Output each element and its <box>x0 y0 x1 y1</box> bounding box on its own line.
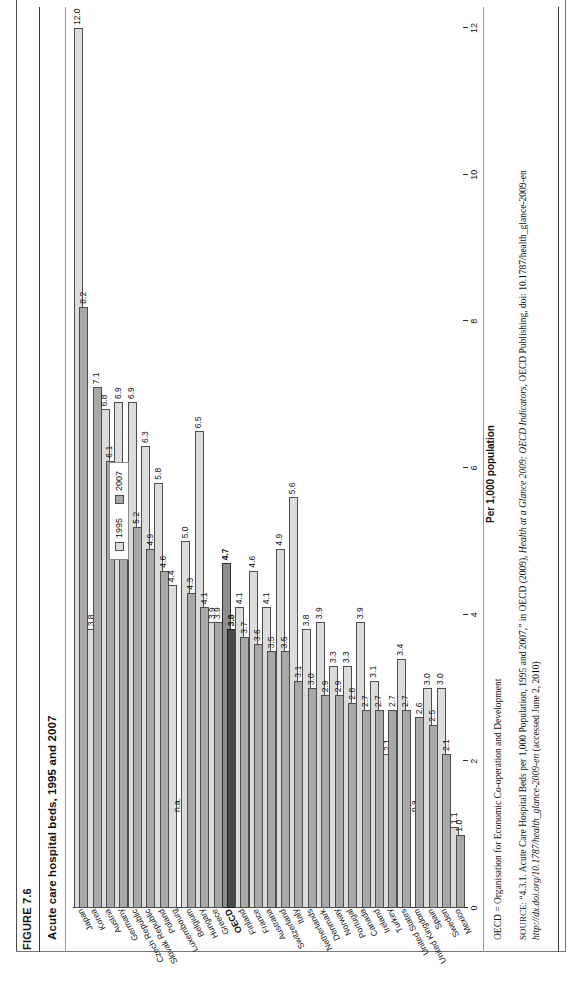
bar-value-label: 2.8 <box>347 688 357 700</box>
legend-label-1995: 1995 <box>114 518 124 538</box>
bar-value-label: 12.0 <box>72 8 82 25</box>
bar-value-label: 3.5 <box>266 637 276 649</box>
bar-value-label: 3.3 <box>341 651 351 663</box>
bar-value-label: 4.9 <box>274 534 284 546</box>
bar-value-label: 4.4 <box>166 571 176 583</box>
bar-value-label: 3.5 <box>279 637 289 649</box>
bar-value-label: 3.7 <box>239 622 249 634</box>
bar-value-label: 2.7 <box>387 695 397 707</box>
divider-top <box>39 7 40 952</box>
bar-value-label: 2.7 <box>400 695 410 707</box>
source-italic-title: Health at a Glance 2009: OECD Indicators <box>518 386 528 553</box>
bar-value-label: 7.1 <box>91 373 101 385</box>
figure-title: Acute care hospital beds, 1995 and 2007 <box>46 716 58 940</box>
bar-value-label: 3.1 <box>368 666 378 678</box>
bar-value-label: 3.8 <box>301 615 311 627</box>
bar-value-label: 2.7 <box>360 695 370 707</box>
source-text-2: , OECD Publishing, doi: 10.1787/health_g… <box>518 170 528 386</box>
bar-value-label: 3.9 <box>355 607 365 619</box>
bar-value-label: 3.0 <box>306 673 316 685</box>
bar-value-label: 5.2 <box>131 512 141 524</box>
legend-item-1995: 1995 <box>114 518 124 551</box>
source-text-3: (accessed June 2, 2010) <box>531 661 541 754</box>
bar-value-label: 4.1 <box>234 593 244 605</box>
bar-value-label: 8.2 <box>78 292 88 304</box>
scanned-page: FIGURE 7.6 Acute care hospital beds, 199… <box>0 0 578 985</box>
axis-tick <box>463 760 468 761</box>
figure-canvas: FIGURE 7.6 Acute care hospital beds, 199… <box>17 0 565 952</box>
bar-value-label: 6.1 <box>104 446 114 458</box>
bar-value-label: 3.0 <box>435 673 445 685</box>
bar-value-label: 4.7 <box>220 549 230 561</box>
axis-tick-label: 4 <box>469 612 479 617</box>
bar-value-label: 4.1 <box>261 593 271 605</box>
legend-label-2007: 2007 <box>114 471 124 491</box>
figure-number: FIGURE 7.6 <box>21 888 33 950</box>
bar-value-label: 4.6 <box>247 556 257 568</box>
bar-1995 <box>168 585 177 908</box>
bar-value-label: 3.9 <box>212 607 222 619</box>
bar-value-label: 2.1 <box>441 739 451 751</box>
bar-value-label: 3.6 <box>252 629 262 641</box>
bar-value-label: 2.5 <box>427 710 437 722</box>
bar-value-label: 4.3 <box>185 578 195 590</box>
bar-value-label: 3.8 <box>226 615 236 627</box>
source-prefix: SOURCE: <box>518 902 528 940</box>
axis-tick-label: 8 <box>469 319 479 324</box>
note-oecd-abbrev: OECD = Organisation for Economic Co-oper… <box>493 679 503 940</box>
bar-value-label: 4.6 <box>158 556 168 568</box>
legend-swatch-1995 <box>115 542 124 551</box>
bar-value-label: 3.9 <box>314 607 324 619</box>
axis-tick-label: 0 <box>469 905 479 910</box>
axis-tick <box>463 320 468 321</box>
bar-value-label: 6.9 <box>113 387 123 399</box>
bar-value-label: 2.9 <box>333 681 343 693</box>
chart-legend: 1995 2007 <box>109 462 129 560</box>
axis-tick <box>463 27 468 28</box>
bar-value-label: 3.0 <box>422 673 432 685</box>
bar-value-label: 2.6 <box>414 703 424 715</box>
bar-value-label: 6.9 <box>126 387 136 399</box>
page-frame-right <box>565 0 566 952</box>
bar-value-label: 2.9 <box>320 681 330 693</box>
bar-value-label: 6.3 <box>140 431 150 443</box>
divider-under-title <box>65 7 66 952</box>
bar-value-label: 3.1 <box>293 666 303 678</box>
bar-value-label: 3.4 <box>395 644 405 656</box>
axis-tick <box>463 467 468 468</box>
bar-value-label: 1.0 <box>454 820 464 832</box>
bar-value-label: 6.8 <box>99 395 109 407</box>
legend-item-2007: 2007 <box>114 471 124 504</box>
source-text-1: “4.3.1. Acute Care Hospital Beds per 1,0… <box>518 553 528 902</box>
bar-value-label: 2.7 <box>373 695 383 707</box>
chart-plot-area: 024681012 12.08.2Japan3.87.1Korea6.86.1A… <box>73 28 463 908</box>
divider-bottom <box>558 7 559 952</box>
bar-value-label: 5.6 <box>287 483 297 495</box>
bar-value-label: 5.0 <box>180 527 190 539</box>
axis-tick-label: 12 <box>469 23 479 33</box>
bar-2007 <box>456 835 465 908</box>
bar-value-label: 4.1 <box>199 593 209 605</box>
bar-value-label: 3.3 <box>328 651 338 663</box>
bar-value-label: 6.5 <box>193 417 203 429</box>
axis-tick-label: 10 <box>469 170 479 180</box>
axis-tick <box>463 614 468 615</box>
axis-tick-label: 6 <box>469 465 479 470</box>
bar-value-label: 5.8 <box>153 468 163 480</box>
bar-value-label: 4.9 <box>145 534 155 546</box>
bar-value-label: n.a. <box>172 798 182 812</box>
axis-tick <box>463 174 468 175</box>
note-source: SOURCE: “4.3.1. Acute Care Hospital Beds… <box>517 25 543 940</box>
source-italic-url: http://dx.doi.org/10.1787/health_glance-… <box>531 754 541 940</box>
legend-swatch-2007 <box>115 495 124 504</box>
axis-tick-label: 2 <box>469 759 479 764</box>
divider-notes <box>483 7 484 952</box>
